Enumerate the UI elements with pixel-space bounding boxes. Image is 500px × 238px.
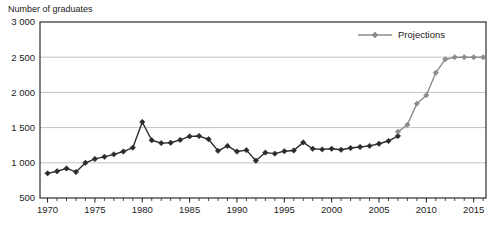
graduates-line-chart: Number of graduates 5001 0001 5002 0002 … [0,0,500,238]
data-point-2000 [329,146,334,151]
data-point-2015 [471,55,476,60]
data-point-2003 [357,144,362,149]
data-point-1971 [54,169,59,174]
y-tick-label-1500: 1 500 [11,122,35,133]
data-point-2006 [386,138,391,143]
data-point-1995 [282,148,287,153]
data-point-2001 [338,147,343,152]
legend-marker-projections [372,32,378,38]
data-point-1999 [319,147,324,152]
data-point-1976 [102,154,107,159]
x-tick-labels: 1970197519801985199019952000200520102015 [37,204,484,215]
data-point-1972 [64,166,69,171]
data-point-1980 [140,119,145,124]
y-tick-label-1000: 1 000 [11,157,35,168]
data-point-1979 [130,145,135,150]
data-point-2013 [452,55,457,60]
x-minor-ticks [48,198,484,203]
x-tick-label-1995: 1995 [274,204,295,215]
x-tick-label-2000: 2000 [321,204,342,215]
x-tick-label-1990: 1990 [226,204,247,215]
series-line-actual [48,122,398,173]
data-series [45,55,486,177]
y-tick-label-3000: 3 000 [11,16,35,27]
data-point-1978 [121,149,126,154]
y-tick-label-500: 500 [19,192,35,203]
data-point-1985 [187,134,192,139]
x-tick-label-1980: 1980 [132,204,153,215]
data-point-1994 [272,151,277,156]
data-point-2005 [376,141,381,146]
y-tick-labels: 5001 0001 5002 0002 5003 000 [11,16,35,203]
data-point-1975 [92,156,97,161]
data-point-1970 [45,171,50,176]
data-point-1984 [177,137,182,142]
data-point-1982 [159,140,164,145]
plot-border [40,22,486,198]
x-tick-label-2005: 2005 [368,204,389,215]
data-point-2016 [480,55,485,60]
x-tick-label-1985: 1985 [179,204,200,215]
x-tick-label-2015: 2015 [463,204,484,215]
y-tick-label-2500: 2 500 [11,52,35,63]
x-tick-label-2010: 2010 [416,204,437,215]
data-point-1983 [168,140,173,145]
legend-label-projections: Projections [398,29,445,40]
x-tick-label-1970: 1970 [37,204,58,215]
data-point-2004 [367,143,372,148]
y-tick-label-2000: 2 000 [11,87,35,98]
gridlines [40,57,486,163]
data-point-2002 [348,145,353,150]
x-tick-label-1975: 1975 [84,204,105,215]
data-point-1977 [111,152,116,157]
plot-frame [40,22,486,198]
data-point-1986 [196,133,201,138]
plot-area: 5001 0001 5002 0002 5003 000 19701975198… [0,0,500,238]
legend: Projections [358,29,445,40]
data-point-2014 [462,55,467,60]
data-point-1981 [149,138,154,143]
series-line-projections [398,57,483,132]
